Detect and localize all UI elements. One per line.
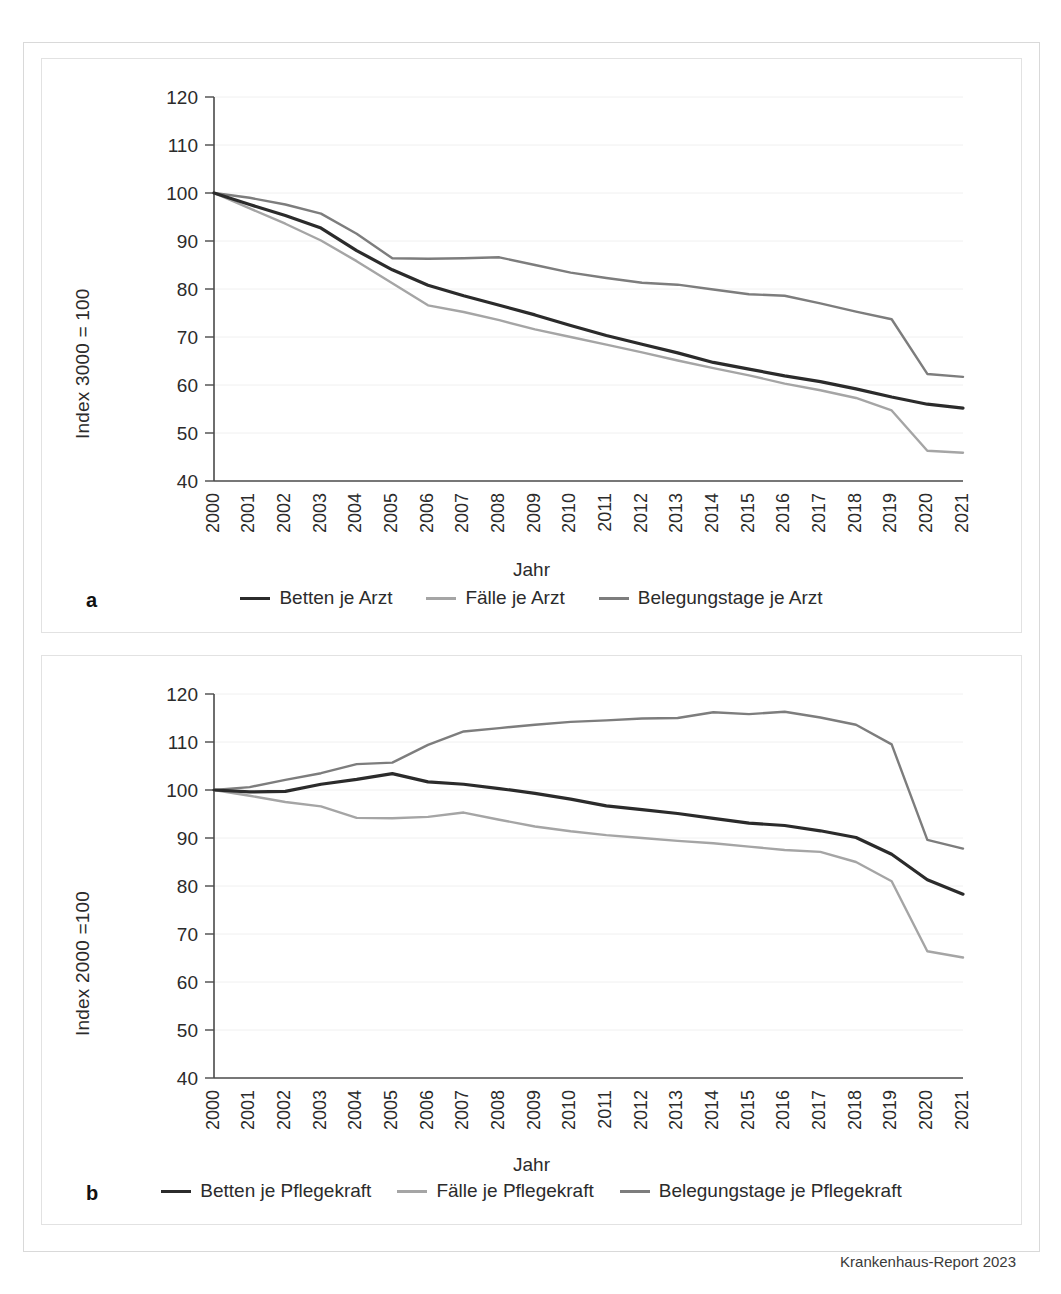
x-tick-label: 2001 — [238, 1090, 258, 1130]
data-series-line — [214, 193, 963, 377]
x-tick-label: 2017 — [809, 493, 829, 533]
x-tick-label: 2001 — [238, 493, 258, 533]
legend-item-faelle-je-arzt[interactable]: Fälle je Arzt — [426, 587, 564, 609]
legend-label: Betten je Arzt — [279, 587, 392, 609]
x-tick-label: 2000 — [203, 493, 223, 533]
y-tick-label: 100 — [166, 780, 198, 801]
x-tick-label: 2018 — [845, 493, 865, 533]
plot-area-a: 4050607080901001101202000200120022003200… — [42, 59, 1021, 632]
plot-area-b: 4050607080901001101202000200120022003200… — [42, 656, 1021, 1224]
x-tick-label: 2012 — [631, 493, 651, 533]
legend-label: Fälle je Arzt — [465, 587, 564, 609]
chart-panel-b: 4050607080901001101202000200120022003200… — [41, 655, 1022, 1225]
x-tick-label: 2020 — [916, 1090, 936, 1130]
x-tick-label: 2007 — [452, 493, 472, 533]
y-tick-label: 70 — [177, 327, 198, 348]
legend-label: Fälle je Pflegekraft — [436, 1180, 593, 1202]
y-tick-label: 120 — [166, 87, 198, 108]
x-tick-label: 2004 — [345, 1090, 365, 1130]
y-tick-label: 50 — [177, 1020, 198, 1041]
legend-swatch-icon — [240, 597, 270, 600]
chart-panel-a: 4050607080901001101202000200120022003200… — [41, 58, 1022, 633]
x-tick-label: 2016 — [773, 1090, 793, 1130]
x-tick-label: 2019 — [880, 493, 900, 533]
x-axis-label-a: Jahr — [42, 559, 1021, 581]
legend-swatch-icon — [426, 597, 456, 600]
x-tick-label: 2006 — [417, 1090, 437, 1130]
legend-swatch-icon — [397, 1190, 427, 1193]
x-tick-label: 2009 — [524, 1090, 544, 1130]
y-tick-label: 50 — [177, 423, 198, 444]
y-tick-label: 80 — [177, 279, 198, 300]
legend-label: Belegungstage je Pflegekraft — [659, 1180, 902, 1202]
x-tick-label: 2005 — [381, 493, 401, 533]
y-axis-label-a: Index 3000 = 100 — [72, 288, 94, 439]
x-tick-label: 2000 — [203, 1090, 223, 1130]
x-tick-label: 2011 — [595, 493, 615, 532]
data-series-line — [214, 193, 963, 408]
data-series-line — [214, 712, 963, 849]
x-tick-label: 2018 — [845, 1090, 865, 1130]
x-tick-label: 2008 — [488, 1090, 508, 1130]
y-tick-label: 90 — [177, 231, 198, 252]
x-tick-label: 2021 — [952, 493, 972, 533]
y-tick-label: 80 — [177, 876, 198, 897]
y-tick-label: 110 — [168, 135, 198, 156]
x-tick-label: 2017 — [809, 1090, 829, 1130]
x-tick-label: 2012 — [631, 1090, 651, 1130]
chart-svg-a: 4050607080901001101202000200120022003200… — [42, 59, 1023, 529]
y-tick-label: 40 — [177, 1068, 198, 1089]
figure-root: 4050607080901001101202000200120022003200… — [0, 0, 1061, 1294]
x-tick-label: 2006 — [417, 493, 437, 533]
y-tick-label: 100 — [166, 183, 198, 204]
legend-a: Betten je Arzt Fälle je Arzt Belegungsta… — [42, 587, 1021, 609]
legend-swatch-icon — [161, 1190, 191, 1193]
x-tick-label: 2021 — [952, 1090, 972, 1130]
x-tick-label: 2002 — [274, 493, 294, 533]
legend-item-betten-je-pflegekraft[interactable]: Betten je Pflegekraft — [161, 1180, 371, 1202]
y-axis-label-b: Index 2000 =100 — [72, 891, 94, 1036]
x-tick-label: 2014 — [702, 493, 722, 533]
x-tick-label: 2008 — [488, 493, 508, 533]
x-tick-label: 2010 — [559, 493, 579, 533]
chart-svg-b: 4050607080901001101202000200120022003200… — [42, 656, 1023, 1126]
legend-item-faelle-je-pflegekraft[interactable]: Fälle je Pflegekraft — [397, 1180, 593, 1202]
x-tick-label: 2003 — [310, 1090, 330, 1130]
x-tick-label: 2015 — [738, 493, 758, 533]
source-note: Krankenhaus-Report 2023 — [840, 1253, 1016, 1270]
legend-swatch-icon — [620, 1190, 650, 1193]
legend-item-betten-je-arzt[interactable]: Betten je Arzt — [240, 587, 392, 609]
y-tick-label: 60 — [177, 375, 198, 396]
legend-item-belegungstage-je-pflegekraft[interactable]: Belegungstage je Pflegekraft — [620, 1180, 902, 1202]
data-series-line — [214, 790, 963, 958]
y-tick-label: 70 — [177, 924, 198, 945]
y-tick-label: 120 — [166, 684, 198, 705]
x-tick-label: 2019 — [880, 1090, 900, 1130]
y-tick-label: 40 — [177, 471, 198, 492]
x-axis-label-b: Jahr — [42, 1154, 1021, 1176]
x-tick-label: 2015 — [738, 1090, 758, 1130]
x-tick-label: 2009 — [524, 493, 544, 533]
x-tick-label: 2014 — [702, 1090, 722, 1130]
x-tick-label: 2002 — [274, 1090, 294, 1130]
legend-swatch-icon — [599, 597, 629, 600]
y-tick-label: 110 — [168, 732, 198, 753]
x-tick-label: 2013 — [666, 1090, 686, 1130]
y-tick-label: 60 — [177, 972, 198, 993]
legend-label: Belegungstage je Arzt — [638, 587, 823, 609]
legend-b: Betten je Pflegekraft Fälle je Pflegekra… — [42, 1180, 1021, 1202]
x-tick-label: 2011 — [595, 1090, 615, 1129]
legend-item-belegungstage-je-arzt[interactable]: Belegungstage je Arzt — [599, 587, 823, 609]
x-tick-label: 2007 — [452, 1090, 472, 1130]
x-tick-label: 2013 — [666, 493, 686, 533]
y-tick-label: 90 — [177, 828, 198, 849]
x-tick-label: 2003 — [310, 493, 330, 533]
x-tick-label: 2010 — [559, 1090, 579, 1130]
x-tick-label: 2004 — [345, 493, 365, 533]
x-tick-label: 2016 — [773, 493, 793, 533]
x-tick-label: 2020 — [916, 493, 936, 533]
x-tick-label: 2005 — [381, 1090, 401, 1130]
legend-label: Betten je Pflegekraft — [200, 1180, 371, 1202]
